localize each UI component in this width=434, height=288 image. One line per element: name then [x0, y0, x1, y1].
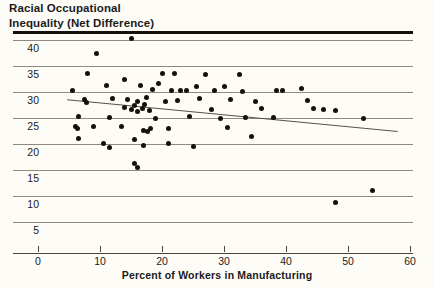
data-point — [299, 86, 304, 91]
data-point — [172, 71, 177, 76]
data-point — [107, 115, 112, 120]
data-point — [321, 107, 326, 112]
data-point — [203, 72, 208, 77]
data-point — [138, 83, 143, 88]
data-point — [169, 88, 174, 93]
data-point — [107, 145, 112, 150]
data-point — [253, 99, 258, 104]
data-point — [191, 144, 196, 149]
plot-area: 510152025303540 — [13, 31, 413, 253]
data-point — [132, 103, 137, 108]
x-tick-10 — [100, 246, 101, 252]
data-point — [222, 84, 227, 89]
data-point — [153, 116, 158, 121]
x-tick-label-0: 0 — [23, 255, 53, 267]
x-tick-60 — [410, 246, 411, 252]
data-point — [104, 83, 109, 88]
data-point — [333, 200, 338, 205]
data-point — [94, 51, 99, 56]
data-point — [225, 125, 230, 130]
data-point — [160, 71, 165, 76]
data-point — [163, 99, 168, 104]
data-point — [129, 107, 134, 112]
x-tick-40 — [286, 246, 287, 252]
scatter-plot-figure: Racial Occupational Inequality (Net Diff… — [0, 0, 434, 288]
data-point — [132, 137, 137, 142]
data-point — [75, 126, 80, 131]
data-point — [166, 141, 171, 146]
x-axis-line — [13, 253, 413, 254]
x-tick-label-30: 30 — [209, 255, 239, 267]
data-point — [197, 96, 202, 101]
x-tick-label-10: 10 — [85, 255, 115, 267]
x-axis-title: Percent of Workers in Manufacturing — [0, 269, 434, 281]
x-tick-30 — [224, 246, 225, 252]
x-tick-label-50: 50 — [333, 255, 363, 267]
x-tick-label-20: 20 — [147, 255, 177, 267]
data-point — [141, 143, 146, 148]
x-tick-label-40: 40 — [271, 255, 301, 267]
x-tick-50 — [348, 246, 349, 252]
data-point — [84, 100, 89, 105]
trend-line — [13, 31, 413, 253]
x-tick-0 — [38, 246, 39, 252]
chart-title: Racial Occupational Inequality (Net Diff… — [9, 1, 269, 30]
data-point — [129, 36, 134, 41]
data-point — [101, 141, 106, 146]
chart-title-line-2: Inequality (Net Difference) — [9, 16, 269, 31]
x-tick-label-60: 60 — [395, 255, 425, 267]
x-tick-20 — [162, 246, 163, 252]
data-point — [135, 109, 140, 114]
data-point — [361, 116, 366, 121]
chart-title-line-1: Racial Occupational — [9, 1, 269, 16]
data-point — [194, 84, 199, 89]
data-point — [144, 95, 149, 100]
data-point — [175, 98, 180, 103]
data-point — [259, 106, 264, 111]
